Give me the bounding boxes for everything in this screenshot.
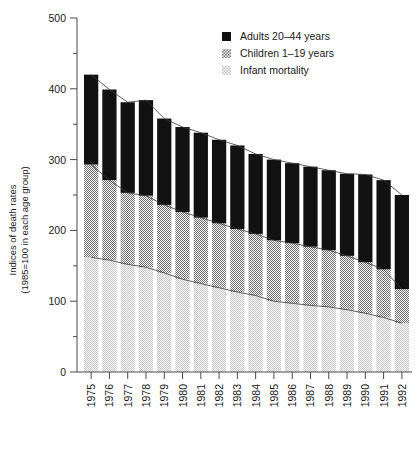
bar-segment-children <box>376 269 390 317</box>
bar-stack <box>230 145 244 372</box>
bar-stack <box>139 100 153 372</box>
x-tick-label: 1990 <box>359 384 371 408</box>
y-axis-title-line2: (1985=100 in each age group) <box>19 166 30 294</box>
bar-stack <box>84 75 98 372</box>
bar-segment-children <box>267 240 281 301</box>
bar-segment-children <box>175 212 189 279</box>
bar-segment-adults <box>139 100 153 196</box>
bar-stack <box>340 174 354 372</box>
bar-segment-infant <box>376 317 390 372</box>
legend-label-1: Children 1–19 years <box>240 47 334 59</box>
bar-stack <box>212 140 226 372</box>
bar-segment-children <box>102 180 116 260</box>
x-tick-label: 1977 <box>122 384 134 408</box>
bar-segment-infant <box>175 279 189 372</box>
bar-segment-infant <box>395 323 409 372</box>
bar-segment-infant <box>358 313 372 372</box>
x-tick-label: 1991 <box>378 384 390 408</box>
bar-segment-adults <box>322 170 336 250</box>
bar-segment-infant <box>139 267 153 372</box>
bar-segment-adults <box>285 163 299 243</box>
y-axis-title-line1: Indices of death rates <box>7 184 18 275</box>
bar-stack <box>121 102 135 372</box>
bar-stack <box>102 90 116 372</box>
bar-segment-infant <box>102 260 116 372</box>
bar-segment-adults <box>340 174 354 256</box>
bar-segment-infant <box>212 288 226 372</box>
legend-label-2: Infant mortality <box>240 64 310 76</box>
bar-stack <box>157 119 171 372</box>
x-tick-label: 1981 <box>195 384 207 408</box>
bar-segment-adults <box>212 140 226 224</box>
bar-segment-infant <box>249 296 263 372</box>
bar-stack <box>285 163 299 372</box>
y-tick-label: 300 <box>48 154 66 166</box>
legend-swatch-0 <box>222 32 231 41</box>
legend-swatch-1 <box>222 49 231 58</box>
y-tick-label: 100 <box>48 295 66 307</box>
bar-segment-adults <box>121 102 135 193</box>
bar-segment-adults <box>358 174 372 262</box>
legend-label-0: Adults 20–44 years <box>240 30 330 42</box>
bar-segment-children <box>322 250 336 307</box>
bar-segment-children <box>285 243 299 303</box>
x-tick-label: 1978 <box>140 384 152 408</box>
stacked-bar-chart: 0100200300400500 19751976197719781979198… <box>0 0 418 454</box>
bar-segment-adults <box>84 75 98 165</box>
bar-segment-children <box>303 247 317 306</box>
bar-segment-children <box>230 229 244 292</box>
bar-segment-adults <box>175 127 189 212</box>
y-tick-label: 200 <box>48 224 66 236</box>
x-tick-label: 1988 <box>323 384 335 408</box>
bar-segment-adults <box>376 180 390 269</box>
x-tick-label: 1989 <box>341 384 353 408</box>
bar-segment-adults <box>230 145 244 229</box>
bar-segment-adults <box>267 160 281 241</box>
bar-segment-infant <box>285 303 299 372</box>
bar-segment-children <box>194 218 208 284</box>
y-tick-label: 400 <box>48 83 66 95</box>
bar-segment-adults <box>102 90 116 181</box>
bar-segment-adults <box>249 154 263 234</box>
y-tick-label: 0 <box>60 366 66 378</box>
bar-segment-infant <box>194 284 208 373</box>
y-axis-title: Indices of death rates (1985=100 in each… <box>7 166 30 294</box>
bar-segment-adults <box>194 133 208 218</box>
x-tick-label: 1979 <box>158 384 170 408</box>
bar-stack <box>376 180 390 372</box>
x-tick-label: 1992 <box>396 384 408 408</box>
bar-stack <box>175 127 189 372</box>
chart-container: 0100200300400500 19751976197719781979198… <box>0 0 418 454</box>
x-tick-label: 1976 <box>103 384 115 408</box>
bar-segment-adults <box>303 167 317 247</box>
bar-segment-infant <box>157 273 171 372</box>
bar-segment-children <box>358 262 372 313</box>
bar-segment-children <box>84 165 98 258</box>
x-tick-label: 1984 <box>250 384 262 408</box>
x-tick-label: 1975 <box>85 384 97 408</box>
bar-stack <box>249 154 263 372</box>
legend-swatch-2 <box>222 66 231 75</box>
bar-stack <box>358 174 372 372</box>
x-tick-label: 1986 <box>286 384 298 408</box>
bar-segment-infant <box>322 307 336 372</box>
bar-stack <box>322 170 336 372</box>
bar-segment-children <box>340 256 354 310</box>
bar-segment-children <box>249 234 263 296</box>
bar-segment-infant <box>340 310 354 372</box>
bar-stack <box>267 160 281 372</box>
x-tick-label: 1980 <box>177 384 189 408</box>
x-tick-label: 1987 <box>304 384 316 408</box>
bar-segment-children <box>212 223 226 287</box>
bar-segment-adults <box>395 195 409 289</box>
x-tick-label: 1983 <box>231 384 243 408</box>
bar-stack <box>194 133 208 372</box>
bar-segment-infant <box>121 264 135 372</box>
bar-segment-infant <box>84 257 98 372</box>
x-tick-label: 1982 <box>213 384 225 408</box>
bar-segment-adults <box>157 119 171 205</box>
y-tick-label: 500 <box>48 12 66 24</box>
bar-segment-infant <box>303 305 317 372</box>
bar-segment-children <box>121 193 135 265</box>
bar-segment-infant <box>267 301 281 372</box>
